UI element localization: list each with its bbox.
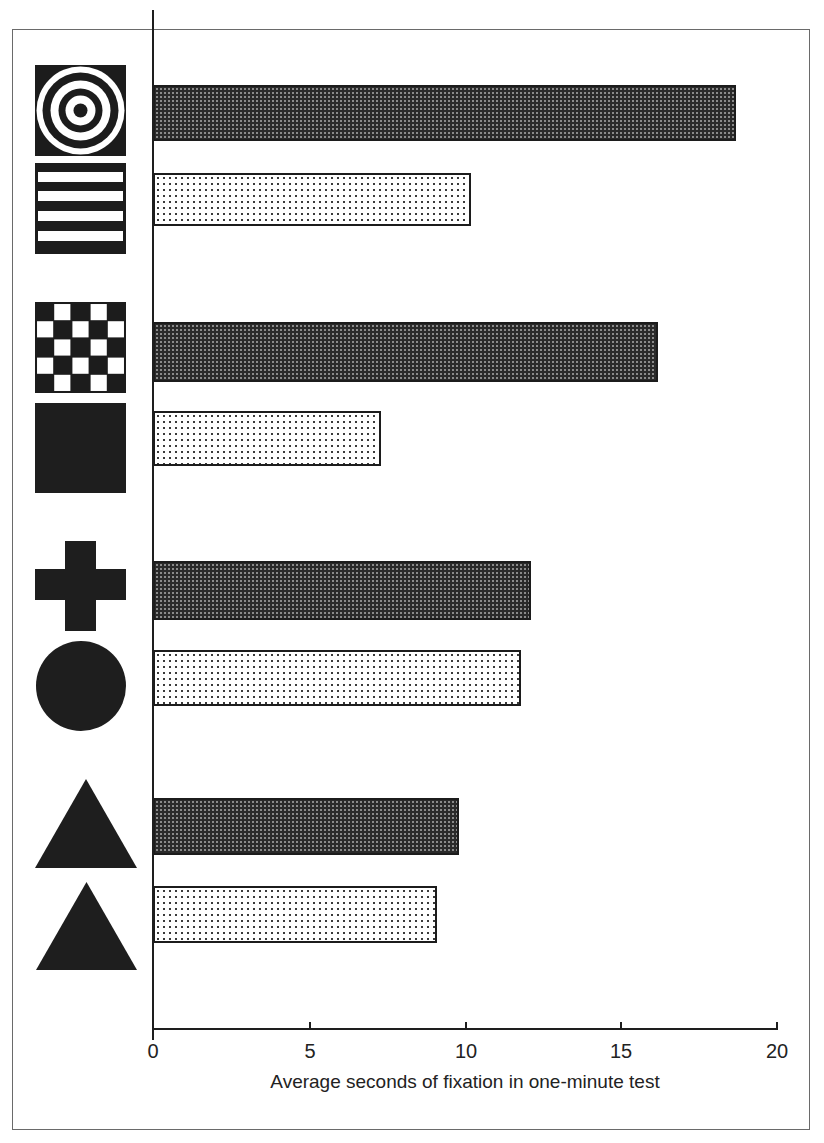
bullseye-pattern-icon — [35, 65, 126, 156]
x-tick-label: 5 — [304, 1040, 315, 1063]
cross-pattern-icon — [35, 541, 126, 631]
checkerboard-pattern-icon — [35, 302, 126, 393]
bar-plain-1 — [153, 173, 471, 226]
solid-circle-pattern-icon — [35, 640, 127, 732]
x-tick-0 — [152, 1022, 154, 1030]
bar-plain-2 — [153, 411, 381, 466]
x-tick-20 — [776, 1022, 778, 1030]
solid-square-pattern-icon — [35, 403, 126, 494]
bar-plain-3 — [153, 650, 521, 706]
x-tick-label: 10 — [455, 1040, 477, 1063]
x-tick-5 — [309, 1022, 311, 1030]
x-tick-label: 0 — [147, 1040, 158, 1063]
x-tick-label: 15 — [610, 1040, 632, 1063]
bar-patterned-3 — [153, 561, 531, 620]
bar-plain-4 — [153, 886, 437, 943]
bar-patterned-4 — [153, 798, 459, 855]
horizontal-stripes-pattern-icon — [35, 163, 126, 254]
x-tick-label: 20 — [766, 1040, 788, 1063]
bar-patterned-2 — [153, 322, 658, 382]
y-axis-line — [152, 10, 154, 1040]
x-tick-15 — [620, 1022, 622, 1030]
triangle-pattern-icon-1 — [35, 779, 137, 869]
bar-patterned-1 — [153, 85, 736, 141]
x-tick-10 — [465, 1022, 467, 1030]
x-axis-title: Average seconds of fixation in one-minut… — [270, 1071, 659, 1093]
triangle-pattern-icon-2 — [36, 882, 137, 971]
